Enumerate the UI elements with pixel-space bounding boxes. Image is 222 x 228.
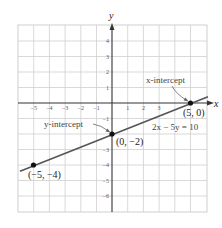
x-tick: 1 [126, 105, 129, 111]
x-tick-labels: −5 −4 −3 −2 −1 1 2 3 [31, 105, 161, 111]
x-tick: −4 [46, 105, 52, 111]
x-axis-label: x [213, 98, 219, 109]
point-label-b: (0, −2) [116, 136, 143, 148]
y-axis-label: y [108, 10, 114, 21]
y-intercept-label: y-intercept [44, 119, 83, 129]
y-tick-labels: 4 3 2 1 −1 −3 −4 −5 −6 [103, 38, 109, 199]
y-tick: −4 [103, 162, 109, 168]
point-label-a: (−5, −4) [28, 169, 61, 181]
point-label-c: (5, 0) [183, 107, 205, 119]
y-tick: 1 [106, 85, 109, 91]
y-tick: −3 [103, 147, 109, 153]
y-tick: 2 [106, 69, 109, 75]
x-intercept-label: x-intercept [146, 75, 185, 85]
x-tick: 2 [142, 105, 145, 111]
y-tick: −6 [103, 193, 109, 199]
coordinate-plane: x y −5 −4 −3 −2 −1 1 2 3 4 3 2 1 −1 −3 −… [0, 0, 222, 228]
y-axis-arrow-icon [110, 23, 115, 30]
y-tick: −5 [103, 178, 109, 184]
y-tick: 4 [106, 38, 109, 44]
x-tick: −1 [93, 105, 99, 111]
equation-label: 2x − 5y = 10 [152, 122, 199, 132]
x-tick: 3 [158, 105, 161, 111]
y-tick: 3 [106, 54, 109, 60]
x-intercept-arrow-icon [172, 86, 187, 101]
x-tick: −3 [62, 105, 68, 111]
point-5-0 [188, 100, 193, 105]
x-tick: −2 [78, 105, 84, 111]
point-neg5-neg4 [31, 162, 36, 167]
x-axis-arrow-icon [207, 101, 214, 106]
x-tick: −5 [31, 105, 37, 111]
y-tick: −1 [103, 116, 109, 122]
x-intercept-arrowhead-icon [184, 98, 189, 102]
